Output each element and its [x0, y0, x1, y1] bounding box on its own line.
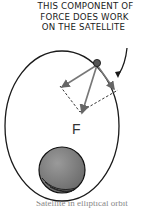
force-label: F — [72, 121, 81, 137]
pointer-arrow — [119, 48, 127, 74]
tangential-component-arrow — [97, 65, 114, 89]
satellite — [93, 59, 100, 66]
planet — [39, 147, 85, 193]
caption-fragment: Satellite in elliptical orbit — [0, 201, 149, 208]
orbit-diagram — [0, 0, 149, 208]
